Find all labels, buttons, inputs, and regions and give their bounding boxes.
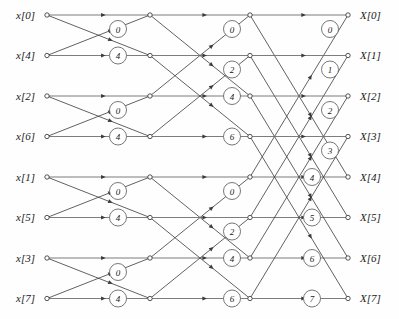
twiddle-exponent: 2 [230,227,235,237]
edge-arrowhead [101,215,106,219]
edge-arrowhead [308,234,314,240]
edge-arrowhead [108,37,114,43]
twiddle-exponent: 5 [310,213,315,223]
butterfly-node-stage1 [148,134,152,138]
twiddle-factor-stage3-row4: 4 [304,169,321,186]
twiddle-exponent: 0 [116,106,121,116]
edge-arrowhead [202,296,207,300]
twiddle-factor-stage2-row4: 0 [224,183,241,200]
input-label-row3: x[6] [15,130,35,142]
twiddle-exponent: 4 [230,92,235,102]
edge-arrowhead [301,53,306,57]
twiddle-exponent: 4 [116,294,121,304]
butterfly-node-stage1 [148,53,152,57]
edge-arrowhead [202,215,207,219]
edge-arrowhead [202,53,207,57]
twiddle-exponent: 2 [328,106,333,116]
twiddle-factor-stage1-row1: 4 [110,47,127,64]
twiddle-factor-stage3-row1: 1 [322,61,339,78]
output-node [346,13,350,17]
edge-arrowhead [308,74,314,80]
twiddle-exponent: 4 [116,213,121,223]
twiddle-factor-stage2-row3: 6 [224,128,241,145]
edge-arrowhead [202,134,207,138]
twiddle-factor-stage2-row0: 0 [224,21,241,38]
twiddle-exponent: 0 [230,187,235,197]
twiddle-factor-stage1-row5: 4 [110,209,127,226]
twiddle-exponent: 4 [116,132,121,142]
twiddle-factor-stage3-row0: 0 [322,21,339,38]
twiddle-exponent: 0 [116,268,121,278]
edge-arrowhead [101,175,106,179]
twiddle-factor-stage3-row3: 3 [322,142,339,159]
twiddle-exponent: 1 [328,65,333,75]
twiddle-factor-stage2-row5: 2 [224,223,241,240]
twiddle-factor-stage2-row6: 4 [224,250,241,267]
butterfly-node-stage2 [248,134,252,138]
twiddle-exponent: 7 [310,294,315,304]
butterfly-node-stage2 [248,175,252,179]
edge-arrowhead [301,13,306,17]
twiddle-factor-stage3-row2: 2 [322,102,339,119]
output-label-row7: X[7] [359,292,381,304]
edge-arrowhead [101,13,106,17]
twiddle-factor-stage3-row5: 5 [304,209,321,226]
twiddle-factor-stage1-row2: 0 [110,102,127,119]
output-label-row2: X[2] [359,90,381,102]
output-label-row6: X[6] [359,252,381,264]
butterfly-node-stage2 [248,296,252,300]
twiddle-exponent: 0 [230,25,235,35]
twiddle-exponent: 6 [230,132,235,142]
output-node [346,296,350,300]
output-node [346,215,350,219]
output-label-row4: X[4] [359,171,381,183]
twiddle-exponent: 4 [116,51,121,61]
butterfly-node-stage1 [148,94,152,98]
twiddle-exponent: 2 [230,65,235,75]
input-label-row6: x[3] [15,252,35,264]
output-label-row1: X[1] [359,49,381,61]
input-node [45,296,49,300]
butterfly-node-stage2 [248,53,252,57]
output-node [346,53,350,57]
edge-arrowhead [101,94,106,98]
twiddle-exponent: 3 [327,146,333,156]
butterfly-node-stage1 [148,175,152,179]
edge-arrowhead [202,13,207,17]
output-label-row5: X[5] [359,211,381,223]
twiddle-factor-stage3-row6: 6 [304,250,321,267]
butterfly-node-stage2 [248,256,252,260]
twiddle-factor-stage1-row0: 0 [110,21,127,38]
butterfly-node-stage1 [148,256,152,260]
output-node [346,94,350,98]
edge-arrowhead [301,134,306,138]
twiddle-exponent: 6 [230,294,235,304]
input-node [45,94,49,98]
fft-flow-graph: 040404040246024601234567 x[0]x[4]x[2]x[6… [0,0,399,319]
twiddle-factor-stage2-row1: 2 [224,61,241,78]
twiddle-exponent: 0 [116,25,121,35]
input-node [45,134,49,138]
edge-arrowhead [108,199,114,205]
edge-arrowhead [108,280,114,286]
twiddle-factor-stage1-row3: 4 [110,128,127,145]
output-label-row0: X[0] [359,9,381,21]
edge-arrowhead [202,175,207,179]
input-label-row0: x[0] [15,9,35,21]
output-node [346,175,350,179]
output-node [346,134,350,138]
twiddle-factor-stage1-row6: 0 [110,264,127,281]
edge-arrowhead [101,134,106,138]
twiddle-factor-stage1-row7: 4 [110,290,127,307]
twiddle-exponent: 0 [328,25,333,35]
edge-arrowhead [202,256,207,260]
twiddle-exponent: 4 [230,254,235,264]
input-label-row2: x[2] [15,90,35,102]
input-node [45,175,49,179]
twiddle-exponent: 6 [310,254,315,264]
butterfly-node-stage2 [248,13,252,17]
output-node [346,256,350,260]
input-node [45,53,49,57]
output-label-row3: X[3] [359,130,381,142]
twiddle-factor-stage2-row2: 4 [224,88,241,105]
